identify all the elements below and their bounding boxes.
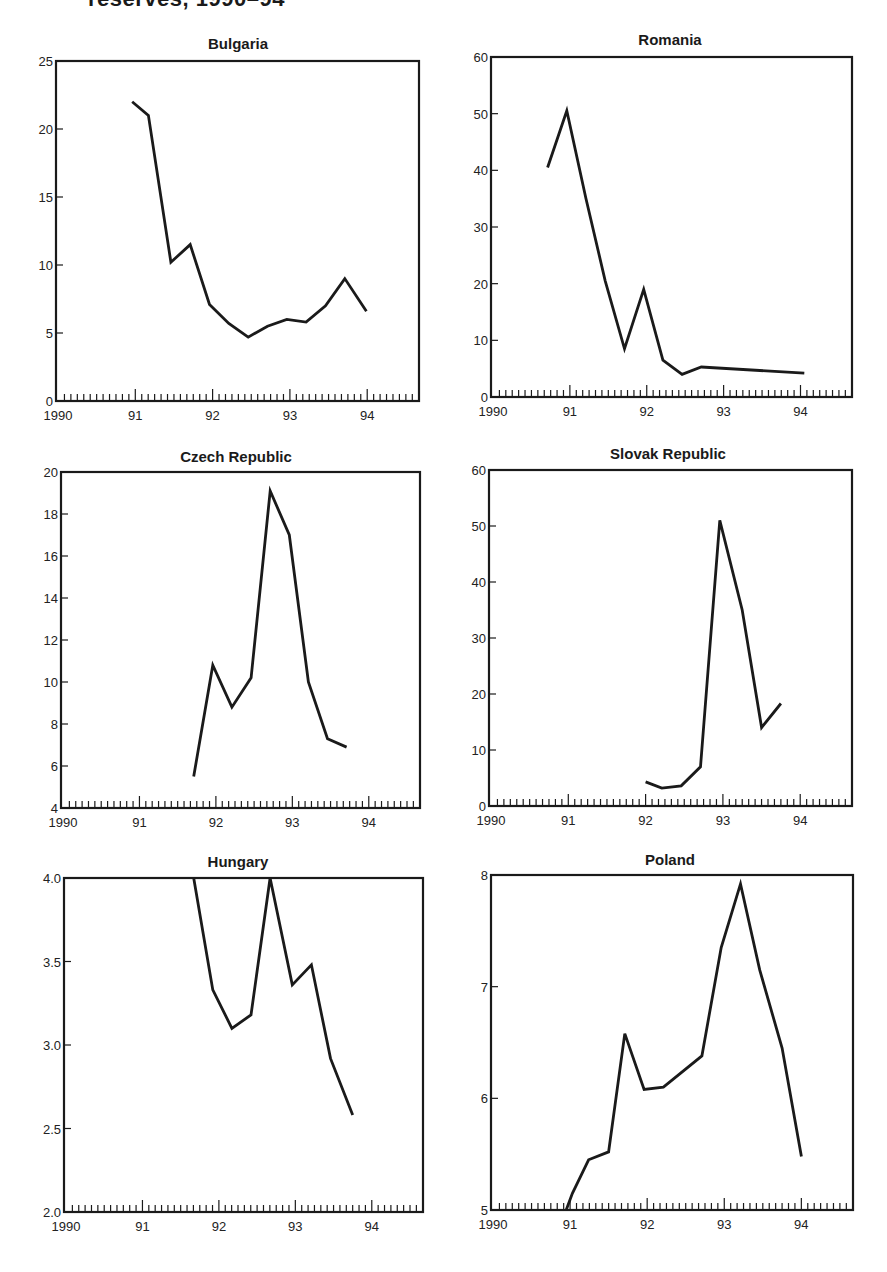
x-tick-label: 91	[135, 1219, 149, 1234]
y-tick-label: 25	[39, 54, 53, 69]
y-tick-label: 3.5	[43, 955, 61, 970]
x-tick-label: 1990	[479, 1217, 508, 1232]
y-tick-label: 10	[474, 333, 488, 348]
y-tick-label: 5	[481, 1203, 488, 1218]
x-tick-label: 92	[212, 1219, 226, 1234]
y-tick-label: 18	[44, 507, 58, 522]
x-tick-label: 92	[205, 408, 219, 423]
x-tick-label: 93	[717, 1217, 731, 1232]
plot-frame	[491, 875, 853, 1210]
y-tick-label: 7	[481, 980, 488, 995]
plot-frame	[64, 878, 423, 1212]
y-tick-label: 4.0	[43, 871, 61, 886]
y-tick-label: 3.0	[43, 1038, 61, 1053]
data-line	[646, 520, 781, 788]
y-tick-label: 2.5	[43, 1122, 61, 1137]
plot-frame	[489, 470, 852, 806]
y-tick-label: 5	[46, 326, 53, 341]
x-tick-label: 1990	[52, 1219, 81, 1234]
y-tick-label: 30	[474, 220, 488, 235]
y-tick-label: 12	[44, 633, 58, 648]
x-tick-label: 1990	[44, 408, 73, 423]
plot-frame	[61, 472, 420, 808]
data-line	[548, 111, 805, 375]
y-tick-label: 20	[472, 687, 486, 702]
y-tick-label: 8	[481, 868, 488, 883]
x-tick-label: 93	[288, 1219, 302, 1234]
y-tick-label: 30	[472, 631, 486, 646]
y-tick-label: 0	[46, 394, 53, 409]
x-tick-label: 1990	[479, 404, 508, 419]
x-tick-label: 92	[638, 813, 652, 828]
x-tick-label: 94	[793, 813, 807, 828]
y-tick-label: 50	[472, 519, 486, 534]
y-tick-label: 60	[472, 463, 486, 478]
y-tick-label: 20	[39, 122, 53, 137]
y-tick-label: 10	[44, 675, 58, 690]
plot-frame	[56, 61, 419, 401]
y-tick-label: 2.0	[43, 1205, 61, 1220]
x-tick-label: 94	[360, 408, 374, 423]
chart-slovak-republic: 1990919293940102030405060	[472, 463, 852, 828]
x-tick-label: 94	[794, 1217, 808, 1232]
chart-hungary: 1990919293942.02.53.03.54.0	[43, 871, 423, 1234]
y-tick-label: 0	[479, 799, 486, 814]
x-tick-label: 93	[716, 813, 730, 828]
chart-romania: 1990919293940102030405060	[474, 50, 852, 419]
x-tick-label: 1990	[477, 813, 506, 828]
y-tick-label: 16	[44, 549, 58, 564]
y-tick-label: 0	[481, 390, 488, 405]
y-tick-label: 6	[481, 1091, 488, 1106]
y-tick-label: 14	[44, 591, 58, 606]
x-tick-label: 91	[563, 1217, 577, 1232]
plot-frame	[491, 57, 852, 397]
x-tick-label: 91	[128, 408, 142, 423]
y-tick-label: 20	[474, 277, 488, 292]
y-tick-label: 15	[39, 190, 53, 205]
data-line	[132, 102, 366, 337]
y-tick-label: 4	[51, 801, 58, 816]
x-tick-label: 94	[362, 815, 376, 830]
x-tick-label: 93	[283, 408, 297, 423]
x-tick-label: 91	[132, 815, 146, 830]
y-tick-label: 60	[474, 50, 488, 65]
chart-czech-republic: 199091929394468101214161820	[44, 465, 420, 830]
x-tick-label: 92	[640, 1217, 654, 1232]
x-tick-label: 93	[716, 404, 730, 419]
x-tick-label: 92	[640, 404, 654, 419]
y-tick-label: 10	[472, 743, 486, 758]
y-tick-label: 40	[474, 163, 488, 178]
x-tick-label: 91	[563, 404, 577, 419]
x-tick-label: 91	[561, 813, 575, 828]
y-tick-label: 20	[44, 465, 58, 480]
x-tick-label: 93	[285, 815, 299, 830]
x-tick-label: 94	[365, 1219, 379, 1234]
y-tick-label: 6	[51, 759, 58, 774]
chart-bulgaria: 1990919293940510152025	[39, 54, 419, 423]
y-tick-label: 8	[51, 717, 58, 732]
x-tick-label: 92	[209, 815, 223, 830]
data-line	[194, 878, 353, 1115]
data-line	[566, 884, 801, 1210]
data-line	[194, 491, 347, 777]
x-tick-label: 94	[793, 404, 807, 419]
chart-poland: 1990919293945678	[479, 868, 853, 1232]
x-tick-label: 1990	[49, 815, 78, 830]
y-tick-label: 40	[472, 575, 486, 590]
y-tick-label: 10	[39, 258, 53, 273]
y-tick-label: 50	[474, 107, 488, 122]
charts-canvas: 1990919293940510152025 19909192939401020…	[0, 0, 887, 1272]
